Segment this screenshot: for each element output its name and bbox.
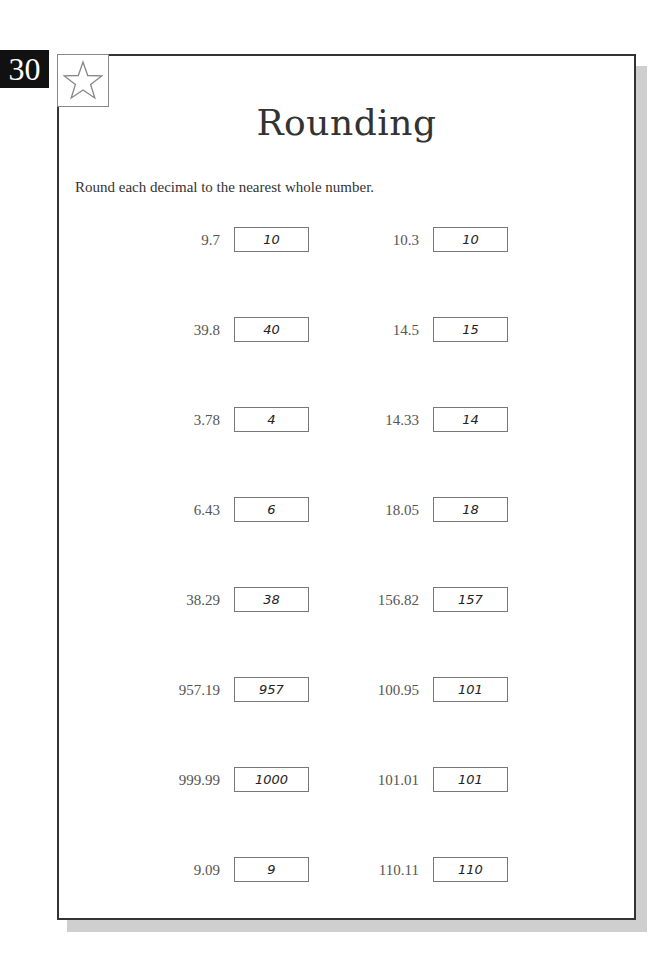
problem-number: 3.78 — [140, 407, 220, 433]
problem-number: 101.01 — [339, 767, 419, 793]
problem-number: 9.7 — [140, 227, 220, 253]
answer-box[interactable]: 101 — [433, 677, 508, 702]
problem-number: 6.43 — [140, 497, 220, 523]
answer-box[interactable]: 110 — [433, 857, 508, 882]
answer-box[interactable]: 10 — [234, 227, 309, 252]
problem-number: 156.82 — [339, 587, 419, 613]
answer-box[interactable]: 1000 — [234, 767, 309, 792]
answer-box[interactable]: 101 — [433, 767, 508, 792]
problem-number: 18.05 — [339, 497, 419, 523]
star-outline-icon — [63, 60, 103, 100]
problem-number: 110.11 — [339, 857, 419, 883]
problem-number: 14.33 — [339, 407, 419, 433]
page-title: Rounding — [59, 102, 634, 143]
answer-box[interactable]: 157 — [433, 587, 508, 612]
answer-box[interactable]: 38 — [234, 587, 309, 612]
instructions: Round each decimal to the nearest whole … — [75, 179, 374, 196]
answer-box[interactable]: 6 — [234, 497, 309, 522]
answer-box[interactable]: 10 — [433, 227, 508, 252]
answer-box[interactable]: 9 — [234, 857, 309, 882]
problem-number: 10.3 — [339, 227, 419, 253]
problem-number: 14.5 — [339, 317, 419, 343]
answer-box[interactable]: 957 — [234, 677, 309, 702]
star-badge — [57, 54, 109, 107]
page-number: 30 — [0, 50, 49, 88]
problem-number: 999.99 — [140, 767, 220, 793]
problem-number: 9.09 — [140, 857, 220, 883]
answer-box[interactable]: 18 — [433, 497, 508, 522]
problem-number: 39.8 — [140, 317, 220, 343]
problem-number: 100.95 — [339, 677, 419, 703]
answer-box[interactable]: 40 — [234, 317, 309, 342]
problem-number: 957.19 — [140, 677, 220, 703]
worksheet-frame: Rounding Round each decimal to the neare… — [57, 54, 636, 920]
answer-box[interactable]: 14 — [433, 407, 508, 432]
problem-number: 38.29 — [140, 587, 220, 613]
answer-box[interactable]: 4 — [234, 407, 309, 432]
answer-box[interactable]: 15 — [433, 317, 508, 342]
